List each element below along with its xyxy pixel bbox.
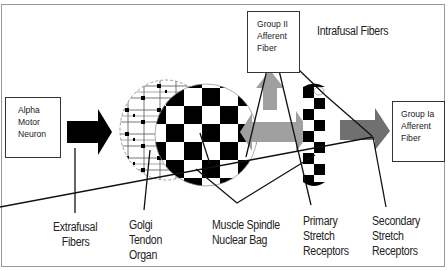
efferent-arrow — [67, 109, 112, 155]
group-ia-line-3: Fiber — [401, 132, 440, 144]
alpha-motor-neuron-line-2: Motor — [18, 116, 56, 128]
extrafusal-fibers-label: Extrafusal Fibers — [53, 220, 97, 250]
intrafusal-cylinder — [303, 84, 325, 187]
primary-gray-arrow — [240, 111, 310, 152]
intrafusal-fibers-label: Intrafusal Fibers — [317, 24, 388, 39]
group-ii-line-3: Fiber — [257, 42, 295, 54]
extrafusal-line-1: Extrafusal — [53, 220, 97, 235]
alpha-motor-neuron-line-3: Neuron — [18, 128, 56, 140]
group-ia-line-2: Afferent — [401, 120, 440, 132]
extrafusal-line-2: Fibers — [53, 235, 97, 250]
nuclear-bag-shape — [155, 84, 257, 186]
primary-stretch-receptors-label: Primary Stretch Receptors — [303, 214, 349, 259]
secondary-line-3: Receptors — [372, 244, 420, 259]
group-ii-afferent-box: Group II Afferent Fiber — [247, 11, 300, 73]
alpha-motor-neuron-box: Alpha Motor Neuron — [5, 97, 61, 158]
muscle-spindle-nuclear-bag-label: Muscle Spindle Nuclear Bag — [212, 218, 280, 248]
alpha-motor-neuron-line-1: Alpha — [18, 104, 56, 116]
secondary-line-2: Stretch — [372, 229, 420, 244]
nuclear-bag-line-1: Muscle Spindle — [212, 218, 280, 233]
golgi-line-1: Golgi — [129, 218, 162, 233]
secondary-line-1: Secondary — [372, 214, 420, 229]
primary-line-1: Primary — [303, 214, 349, 229]
primary-line-3: Receptors — [303, 244, 349, 259]
group-ii-line-1: Group II — [257, 18, 295, 30]
group-ia-line-1: Group Ia — [401, 108, 440, 120]
golgi-tendon-organ-label: Golgi Tendon Organ — [129, 218, 162, 263]
group-ii-line-2: Afferent — [257, 30, 295, 42]
primary-line-2: Stretch — [303, 229, 349, 244]
golgi-line-3: Organ — [129, 248, 162, 263]
group-ia-afferent-box: Group Ia Afferent Fiber — [392, 101, 445, 162]
golgi-line-2: Tendon — [129, 233, 162, 248]
nuclear-bag-line-2: Nuclear Bag — [212, 233, 280, 248]
secondary-stretch-receptors-label: Secondary Stretch Receptors — [372, 214, 420, 259]
